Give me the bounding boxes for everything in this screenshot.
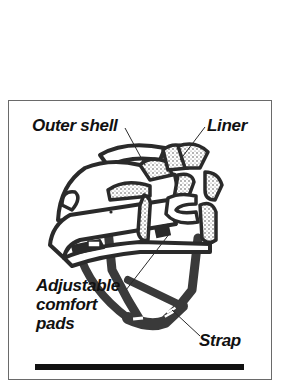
label-liner: Liner [207, 116, 247, 135]
bottom-rule [35, 364, 244, 370]
label-adjustable-comfort-pads: Adjustable comfort pads [36, 276, 120, 333]
label-adjustable-line3: pads [36, 314, 120, 333]
label-outer-shell: Outer shell [32, 116, 118, 135]
label-adjustable-line2: comfort [36, 295, 120, 314]
label-strap: Strap [199, 331, 241, 350]
label-adjustable-line1: Adjustable [36, 276, 120, 295]
